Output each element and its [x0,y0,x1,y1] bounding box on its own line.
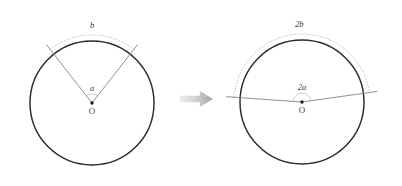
right-center-label: O [299,105,306,115]
right-ray-start [226,97,302,102]
left-ray-start [46,45,92,103]
right-center-dot [300,100,303,103]
right-angle-label: 2a [298,82,307,92]
figure-root: b a O 2b 2a O [0,0,402,186]
geometry-figure: b a O 2b 2a O [0,0,402,186]
right-angle-marker [293,93,311,101]
left-circle-group: b a O [30,20,154,165]
left-arc-label: b [90,20,94,30]
right-arc-label: 2b [295,19,304,29]
left-angle-label: a [90,83,94,93]
transformation-arrow-group [180,91,213,107]
left-ray-end [92,45,138,103]
arrow-right-icon [180,91,213,107]
left-arc-dotted [50,35,134,49]
left-center-dot [90,101,93,104]
left-center-label: O [89,106,96,116]
right-ray-end [302,91,377,102]
left-angle-marker [86,94,97,96]
right-circle-group: 2b 2a O [226,19,377,164]
